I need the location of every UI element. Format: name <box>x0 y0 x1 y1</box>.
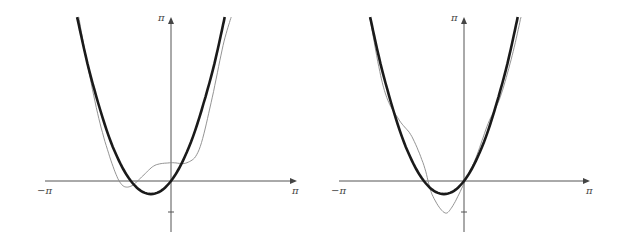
series-partial-sum <box>79 17 231 187</box>
x-min-label: −π <box>37 186 52 196</box>
plot-left <box>0 0 308 245</box>
x-axis-arrow-icon <box>290 178 297 184</box>
plot-right <box>307 0 615 245</box>
series-partial-sum <box>370 17 521 213</box>
x-max-label: π <box>586 186 593 196</box>
x-max-label: π <box>292 186 299 196</box>
axes <box>45 17 297 232</box>
y-max-label: π <box>158 13 165 23</box>
x-min-label: −π <box>331 186 346 196</box>
series-parabola <box>370 17 518 194</box>
y-axis-arrow-icon <box>168 17 174 24</box>
x-axis-arrow-icon <box>583 178 590 184</box>
y-axis-arrow-icon <box>461 17 467 24</box>
y-max-label: π <box>451 13 458 23</box>
chart-right: −π π π <box>307 0 615 245</box>
chart-left: −π π π <box>0 0 308 245</box>
